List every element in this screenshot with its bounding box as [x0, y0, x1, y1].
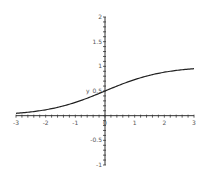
- x-tick-label: 2: [162, 119, 166, 126]
- x-tick-label: -1: [72, 119, 78, 126]
- y-axis-label: y: [86, 87, 90, 95]
- y-tick-label: -0.5: [90, 136, 102, 143]
- y-tick-label: 1: [98, 62, 102, 69]
- y-tick-label: -1: [96, 161, 102, 168]
- x-tick-label: 3: [192, 119, 196, 126]
- sigmoid-plot: -3-2-10123-1-0.50.511.52 y: [0, 0, 205, 176]
- y-tick-label: 1.5: [92, 38, 102, 45]
- y-tick-label: 2: [98, 13, 102, 20]
- x-tick-label: -3: [13, 119, 19, 126]
- x-tick-label: 1: [133, 119, 137, 126]
- x-tick-label: -2: [43, 119, 49, 126]
- x-tick-label: 0: [103, 119, 107, 126]
